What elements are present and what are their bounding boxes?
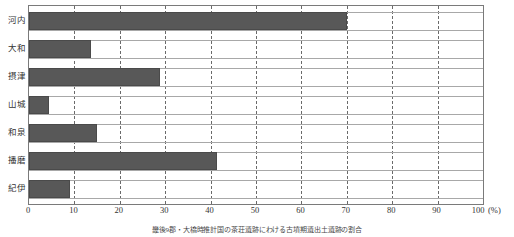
x-axis-unit-label: (%) (488, 205, 501, 216)
category-label-izumi: 和泉 (0, 127, 26, 137)
xtick-label-30: 30 (160, 205, 169, 216)
row-rule (29, 30, 483, 31)
gridline-80 (392, 6, 393, 204)
plot-area (28, 5, 484, 205)
xtick-label-70: 70 (342, 205, 351, 216)
xtick-label-80: 80 (387, 205, 396, 216)
row-rule (29, 124, 483, 125)
gridline-50 (256, 6, 257, 204)
gridline-60 (301, 6, 302, 204)
row-rule (29, 142, 483, 143)
figure-caption: 畿後9郡・大橋時推計国の茶荘遺跡にわける古墳期遺出土遺跡の割合 (0, 226, 514, 235)
xtick-label-90: 90 (432, 205, 441, 216)
bar-chart-figure: 河内 大和 摂津 山城 和泉 播磨 紀伊 0 10 20 30 40 50 60… (0, 0, 514, 237)
bar-6[interactable] (29, 180, 70, 198)
row-rule (29, 58, 483, 59)
xtick-label-100: 100 (472, 205, 485, 216)
bar-2[interactable] (29, 68, 160, 86)
x-axis-tick-labels: 0 10 20 30 40 50 60 70 80 90 100 (%) (0, 205, 514, 219)
bar-4[interactable] (29, 124, 97, 142)
row-rule (29, 198, 483, 199)
row-rule (29, 180, 483, 181)
row-rule (29, 170, 483, 171)
category-label-yamashiro: 山城 (0, 99, 26, 109)
gridline-30 (165, 6, 166, 204)
row-rule (29, 96, 483, 97)
row-rule (29, 86, 483, 87)
category-label-kawachi: 河内 (0, 15, 26, 25)
row-rule (29, 40, 483, 41)
bar-0[interactable] (29, 12, 347, 30)
gridline-10 (74, 6, 75, 204)
bar-3[interactable] (29, 96, 49, 114)
category-label-settsu: 摂津 (0, 71, 26, 81)
gridline-20 (120, 6, 121, 204)
xtick-label-0: 0 (26, 205, 30, 216)
gridline-90 (438, 6, 439, 204)
xtick-label-10: 10 (69, 205, 78, 216)
xtick-label-60: 60 (296, 205, 305, 216)
gridline-40 (211, 6, 212, 204)
bar-1[interactable] (29, 40, 91, 58)
category-label-yamato: 大和 (0, 43, 26, 53)
xtick-label-40: 40 (205, 205, 214, 216)
xtick-label-50: 50 (251, 205, 260, 216)
category-label-kii: 紀伊 (0, 183, 26, 193)
xtick-label-20: 20 (115, 205, 124, 216)
category-label-harima: 播磨 (0, 155, 26, 165)
row-rule (29, 114, 483, 115)
bar-5[interactable] (29, 152, 217, 170)
gridline-70 (347, 6, 348, 204)
